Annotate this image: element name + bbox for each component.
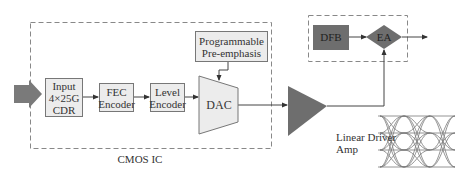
dfb-label: DFB — [313, 31, 349, 43]
input-cdr-block: Input 4×25G CDR — [45, 78, 83, 117]
preemphasis-line1: Programmable — [199, 35, 264, 47]
input-arrow-icon — [14, 80, 42, 108]
level-encoder-block: Level Encoder — [150, 83, 185, 112]
fec-line2: Encoder — [98, 98, 135, 110]
preemphasis-line2: Pre-emphasis — [202, 47, 261, 59]
cmos-ic-label: CMOS IC — [110, 153, 170, 165]
level-line2: Encoder — [149, 98, 186, 110]
fec-encoder-block: FEC Encoder — [99, 83, 134, 112]
linear-driver-line1: Linear Driver — [336, 131, 396, 143]
level-line1: Level — [155, 86, 180, 98]
connector-preemphasis-dac — [219, 62, 228, 80]
input-cdr-line2: 4×25G — [49, 92, 80, 104]
dac-label: DAC — [203, 99, 235, 111]
fec-line1: FEC — [106, 86, 126, 98]
linear-driver-amp-icon — [288, 86, 327, 136]
linear-driver-label: Linear Driver Amp — [336, 131, 396, 155]
ea-label: EA — [372, 31, 396, 43]
connector-driver-ea — [327, 50, 384, 106]
linear-driver-line2: Amp — [336, 143, 396, 155]
input-cdr-line1: Input — [52, 80, 75, 92]
input-cdr-line3: CDR — [53, 104, 76, 116]
preemphasis-block: Programmable Pre-emphasis — [195, 31, 268, 62]
